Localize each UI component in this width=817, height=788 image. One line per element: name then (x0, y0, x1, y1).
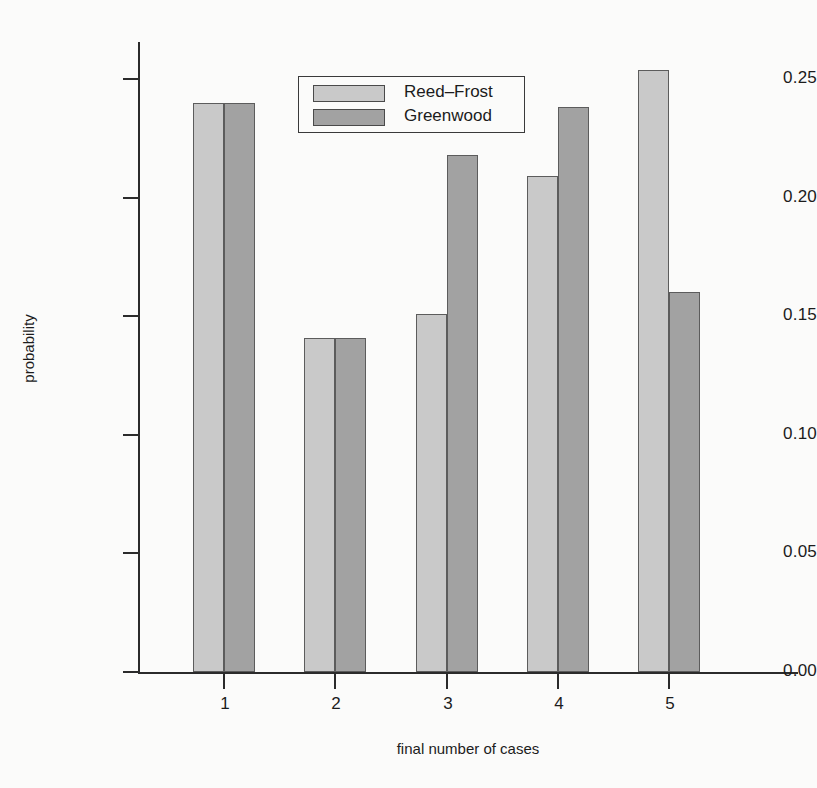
y-tick-mark (123, 315, 138, 317)
y-tick-mark (123, 671, 138, 673)
x-axis-line (138, 672, 798, 674)
bar (638, 70, 669, 672)
y-axis-title: probability (20, 259, 37, 439)
bar (335, 338, 366, 672)
legend-item: Greenwood (299, 106, 524, 128)
legend-label: Reed–Frost (404, 82, 493, 102)
bar (558, 107, 589, 672)
y-tick-label: 0.15 (709, 305, 817, 325)
y-tick-label: 0.25 (709, 68, 817, 88)
legend-label: Greenwood (404, 106, 492, 126)
bar (416, 314, 447, 672)
legend-swatch (313, 109, 385, 126)
x-tick-label: 2 (306, 694, 366, 714)
bar (304, 338, 335, 672)
y-tick-mark (123, 197, 138, 199)
x-axis-title: final number of cases (138, 740, 798, 757)
x-tick-label: 3 (418, 694, 478, 714)
x-tick-mark (223, 674, 225, 689)
y-tick-label: 0.20 (709, 187, 817, 207)
y-tick-label: 0.10 (709, 424, 817, 444)
bar-chart-figure: 0.000.050.100.150.200.25 12345 Reed–Fros… (0, 0, 817, 788)
y-tick-label: 0.05 (709, 542, 817, 562)
legend: Reed–FrostGreenwood (298, 76, 525, 133)
y-tick-mark (123, 78, 138, 80)
x-tick-label: 1 (195, 694, 255, 714)
y-tick-mark (123, 552, 138, 554)
bar (224, 103, 255, 672)
legend-item: Reed–Frost (299, 82, 524, 104)
x-tick-mark (557, 674, 559, 689)
bar (669, 292, 700, 672)
y-axis-line (138, 42, 140, 674)
x-tick-mark (446, 674, 448, 689)
x-tick-label: 4 (529, 694, 589, 714)
y-tick-mark (123, 434, 138, 436)
bar (527, 176, 558, 672)
legend-swatch (313, 85, 385, 102)
x-tick-label: 5 (640, 694, 700, 714)
x-tick-mark (668, 674, 670, 689)
y-tick-label: 0.00 (709, 661, 817, 681)
x-tick-mark (334, 674, 336, 689)
bar (193, 103, 224, 672)
bar (447, 155, 478, 672)
